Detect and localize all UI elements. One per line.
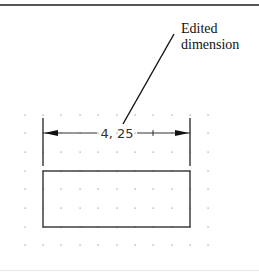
grid-dot [25,189,26,190]
grid-dot [25,133,26,134]
grid-dot [208,171,209,172]
grid-dot [117,208,118,209]
grid-dot [172,115,173,116]
grid-dot [208,133,209,134]
grid-dot [43,245,44,246]
left-arrowhead-icon [44,130,58,136]
grid-dot [80,152,81,153]
grid-dot [135,245,136,246]
grid-dot [135,208,136,209]
grid-dot [208,245,209,246]
grid-dot [98,115,99,116]
grid-dot [61,115,62,116]
grid-dot [135,115,136,116]
grid-dot [80,189,81,190]
grid-dot [117,152,118,153]
dimension-value[interactable]: 4, 25 [100,126,133,141]
grid-dot [25,245,26,246]
grid-dot [208,208,209,209]
grid-dot [208,152,209,153]
grid-dot [98,208,99,209]
grid-dot [135,133,136,134]
grid-dot [208,115,209,116]
grid-dot [61,152,62,153]
right-arrowhead-icon [175,130,189,136]
grid-dot [117,115,118,116]
grid-dot [25,208,26,209]
grid-dot [61,189,62,190]
grid-dot [80,245,81,246]
rectangle-shape[interactable] [43,171,190,227]
grid-dot [25,115,26,116]
grid-dot [25,171,26,172]
grid-dot [190,245,191,246]
callout-line-2: dimension [181,37,239,53]
grid-dot [25,227,26,228]
grid-dot [208,189,209,190]
grid-dot [153,115,154,116]
grid-dot [61,245,62,246]
grid-dot [172,152,173,153]
grid-dot [25,152,26,153]
grid-dot [98,133,99,134]
callout-leader-line [123,34,174,124]
grid-dot [117,245,118,246]
grid-dot [135,189,136,190]
grid-dot [208,227,209,228]
grid-dot [98,189,99,190]
grid-dot [153,189,154,190]
grid-dot [80,208,81,209]
grid-dot [153,245,154,246]
grid-dot [61,208,62,209]
grid-dot [172,189,173,190]
grid-dot [135,152,136,153]
grid-dot [153,208,154,209]
callout-line-1: Edited [181,21,239,37]
grid-dot [98,245,99,246]
grid-dot [117,189,118,190]
grid-dot [153,152,154,153]
callout-label: Edited dimension [181,21,239,53]
grid-dot [172,208,173,209]
grid-dot [43,115,44,116]
grid-dot [172,245,173,246]
grid-dot [80,115,81,116]
grid-dot [190,115,191,116]
grid-dot [98,152,99,153]
